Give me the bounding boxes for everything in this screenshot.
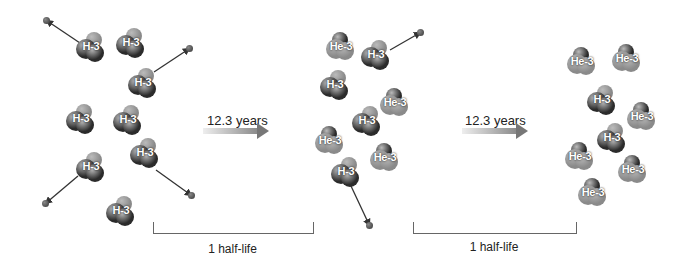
tritium-molecule: H-3 xyxy=(587,85,617,115)
molecule-label: He-3 xyxy=(326,40,356,52)
molecule-label: He-3 xyxy=(380,96,410,108)
tritium-molecule: H-3 xyxy=(331,157,361,187)
molecule-label: H-3 xyxy=(128,76,158,88)
tritium-molecule: H-3 xyxy=(130,138,160,168)
molecule-label: H-3 xyxy=(76,160,106,172)
emission-arrow xyxy=(154,49,190,73)
half-life-label: 1 half-life xyxy=(413,240,575,254)
beta-particle-icon xyxy=(186,45,193,52)
tritium-molecule: H-3 xyxy=(597,123,627,153)
tritium-molecule: H-3 xyxy=(106,196,136,226)
tritium-molecule: H-3 xyxy=(113,105,143,135)
molecule-label: H-3 xyxy=(113,113,143,125)
time-arrow-icon xyxy=(203,128,259,134)
helium3-molecule: He-3 xyxy=(567,47,597,77)
helium3-molecule: He-3 xyxy=(565,142,595,172)
beta-particle-icon xyxy=(42,200,49,207)
helium3-molecule: He-3 xyxy=(578,178,608,208)
molecule-label: H-3 xyxy=(106,204,136,216)
beta-particle-icon xyxy=(43,17,50,24)
molecule-label: H-3 xyxy=(597,131,627,143)
molecule-label: H-3 xyxy=(66,112,96,124)
helium3-molecule: He-3 xyxy=(326,32,356,62)
helium3-molecule: He-3 xyxy=(618,155,648,185)
helium3-molecule: He-3 xyxy=(627,102,657,132)
tritium-molecule: H-3 xyxy=(320,70,350,100)
molecule-label: H-3 xyxy=(587,93,617,105)
helium3-molecule: He-3 xyxy=(370,143,400,173)
half-life-bracket xyxy=(153,222,314,234)
helium3-molecule: He-3 xyxy=(380,88,410,118)
tritium-molecule: H-3 xyxy=(76,32,106,62)
tritium-molecule: H-3 xyxy=(361,40,391,70)
molecule-label: He-3 xyxy=(315,134,345,146)
tritium-molecule: H-3 xyxy=(352,106,382,136)
molecule-label: He-3 xyxy=(578,186,608,198)
tritium-molecule: H-3 xyxy=(66,104,96,134)
half-life-label: 1 half-life xyxy=(153,242,312,256)
beta-particle-icon xyxy=(188,192,195,199)
molecule-label: H-3 xyxy=(331,165,361,177)
emission-arrow xyxy=(351,186,370,226)
tritium-molecule: H-3 xyxy=(116,28,146,58)
emission-arrow xyxy=(390,33,421,51)
molecule-label: H-3 xyxy=(116,36,146,48)
tritium-molecule: H-3 xyxy=(128,68,158,98)
molecule-label: He-3 xyxy=(627,110,657,122)
beta-particle-icon xyxy=(417,29,424,36)
emission-arrow xyxy=(47,21,81,44)
time-arrow-icon xyxy=(462,128,518,134)
beta-particle-icon xyxy=(366,222,373,229)
emission-arrow xyxy=(46,176,79,204)
molecule-label: He-3 xyxy=(370,151,400,163)
molecule-label: H-3 xyxy=(130,146,160,158)
helium3-molecule: He-3 xyxy=(315,126,345,156)
half-life-bracket xyxy=(413,222,577,234)
molecule-label: He-3 xyxy=(612,52,642,64)
molecule-label: H-3 xyxy=(352,114,382,126)
molecule-label: H-3 xyxy=(320,78,350,90)
molecule-label: He-3 xyxy=(567,55,597,67)
molecule-label: He-3 xyxy=(618,163,648,175)
emission-arrow xyxy=(156,170,192,196)
molecule-label: H-3 xyxy=(76,40,106,52)
tritium-molecule: H-3 xyxy=(76,152,106,182)
helium3-molecule: He-3 xyxy=(612,44,642,74)
molecule-label: He-3 xyxy=(565,150,595,162)
molecule-label: H-3 xyxy=(361,48,391,60)
